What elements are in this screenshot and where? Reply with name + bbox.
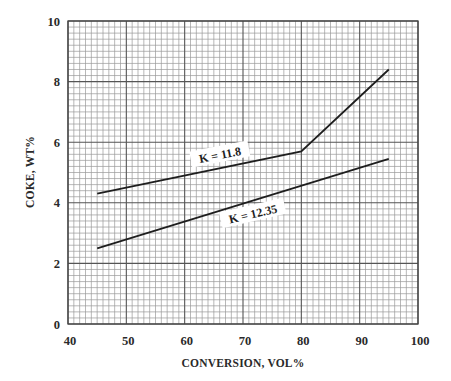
x-tick-label: 70: [239, 334, 252, 348]
y-tick-label: 4: [54, 196, 61, 210]
x-tick-label: 100: [411, 334, 430, 348]
x-tick-label: 80: [297, 334, 310, 348]
x-tick-label: 90: [355, 334, 368, 348]
x-tick-label: 40: [64, 334, 77, 348]
y-tick-label: 8: [54, 75, 60, 89]
x-axis-ticks: 405060708090100: [64, 334, 430, 348]
y-axis-ticks: 0246810: [48, 15, 61, 332]
coke-vs-conversion-chart: K = 11.8K = 12.35 405060708090100 024681…: [0, 0, 451, 381]
x-tick-label: 50: [122, 334, 135, 348]
x-axis-title: CONVERSION, VOL%: [182, 357, 305, 369]
y-tick-label: 0: [54, 318, 60, 332]
x-tick-label: 60: [180, 334, 193, 348]
y-axis-title: COKE, WT%: [24, 136, 36, 208]
y-tick-label: 6: [54, 136, 60, 150]
y-tick-label: 2: [54, 257, 60, 271]
y-tick-label: 10: [48, 15, 61, 29]
